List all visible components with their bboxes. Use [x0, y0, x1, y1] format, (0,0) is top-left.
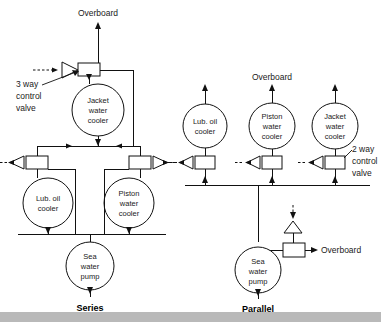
series-three-way-valve-cone-icon [62, 62, 78, 78]
series-valve-label-line2: control [16, 91, 42, 101]
parallel-lub-oil-overboard-arrow-icon [202, 84, 208, 91]
series-valve-inlet-arrow-icon [52, 68, 58, 73]
parallel-relief-overboard-arrow-icon [311, 247, 318, 253]
parallel-cooler-jacket-water-line2: water [325, 122, 345, 131]
series-lub-oil-valve-arrow-icon [8, 160, 14, 165]
parallel-group: Overboard Lub. oil cooler Piston water c… [168, 72, 378, 314]
series-cooler-lub-oil-line1: Lub. oil [36, 194, 61, 203]
diagram-page: Overboard 3 way control valve Jacket wat… [0, 0, 381, 322]
parallel-lub-oil-valve-body [195, 156, 215, 169]
parallel-piston-overboard-arrow-icon [269, 84, 275, 91]
parallel-cooler-piston-water-line3: cooler [262, 132, 283, 141]
cooling-system-diagram: Overboard 3 way control valve Jacket wat… [0, 0, 381, 322]
parallel-cooler-lub-oil-line1: Lub. oil [193, 117, 218, 126]
parallel-cooler-jacket-water-line1: Jacket [324, 112, 347, 121]
parallel-valve-leader-line [344, 150, 352, 158]
series-cooler-jacket-water-line3: cooler [88, 116, 109, 125]
parallel-relief-valve-body [283, 243, 305, 257]
series-cooler-piston-water-line3: cooler [119, 209, 140, 218]
parallel-valve-label-line1: 2 way [352, 144, 375, 154]
series-cooler-lub-oil-line2: cooler [38, 204, 59, 213]
series-valve-label-line1: 3 way [16, 79, 39, 89]
parallel-piston-valve-arrow-icon [245, 160, 251, 165]
series-pump-line1: Sea [83, 252, 97, 261]
series-cooler-lub-oil [23, 178, 73, 228]
series-piston-valve-body [129, 156, 151, 169]
parallel-overboard-right-label: Overboard [321, 245, 361, 255]
series-manifold-arrow-right-icon [116, 144, 122, 149]
parallel-cooler-jacket-water-line3: cooler [325, 132, 346, 141]
series-overboard-arrow-icon [95, 22, 101, 29]
parallel-valve-label-line2: control [352, 156, 378, 166]
parallel-cooler-piston-water-line2: water [262, 122, 282, 131]
parallel-lub-oil-flow-arrow-icon [202, 176, 208, 183]
series-jacket-outlet-arrow-icon [95, 139, 101, 146]
parallel-jacket-valve-arrow-icon [308, 160, 314, 165]
parallel-valve-label-line3: valve [352, 168, 372, 178]
series-piston-outlet-arrow-icon [126, 227, 132, 234]
parallel-cooler-lub-oil [183, 104, 227, 148]
series-valve-label-line3: valve [16, 103, 36, 113]
series-cooler-jacket-water-line2: water [88, 106, 108, 115]
series-jacket-inlet-arrow-icon [86, 74, 92, 80]
series-group: Overboard 3 way control valve Jacket wat… [0, 8, 177, 313]
parallel-pump-line3: pump [249, 277, 268, 286]
footer-bar [0, 312, 381, 322]
parallel-piston-flow-arrow-icon [269, 176, 275, 183]
parallel-overboard-label: Overboard [252, 72, 292, 82]
parallel-cooler-piston-water-line1: Piston [262, 112, 283, 121]
series-valve-leader-line [42, 72, 76, 85]
parallel-cooler-lub-oil-line2: cooler [195, 127, 216, 136]
parallel-pump-line1: Sea [251, 257, 265, 266]
series-cooler-jacket-water-line1: Jacket [87, 96, 110, 105]
parallel-relief-valve-cone-icon [284, 221, 302, 233]
series-pump-line3: pump [81, 272, 100, 281]
series-cooler-piston-water-line1: Piston [119, 189, 140, 198]
parallel-jacket-flow-arrow-icon [332, 176, 338, 183]
series-cooler-piston-water-line2: water [119, 199, 139, 208]
parallel-lub-oil-valve-arrow-icon [178, 160, 184, 165]
series-lub-oil-valve-body [26, 156, 48, 169]
parallel-relief-pilot-arrow-icon [290, 212, 296, 219]
series-pump-line2: water [80, 262, 100, 271]
parallel-pump-line2: water [248, 267, 268, 276]
parallel-jacket-overboard-arrow-icon [332, 84, 338, 91]
series-lub-oil-outlet-arrow-icon [45, 227, 51, 234]
parallel-jacket-valve-body [325, 156, 345, 169]
parallel-piston-valve-body [262, 156, 282, 169]
series-manifold-arrow-left-icon [66, 144, 72, 149]
series-overboard-label: Overboard [78, 8, 118, 18]
series-pump-suction-arrow-icon [87, 287, 93, 294]
